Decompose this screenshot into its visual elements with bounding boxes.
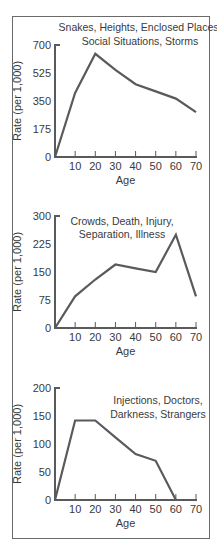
chart-title: Injections, Doctors, [113,394,202,406]
y-axis-label: Rate (per 1,000) [11,404,23,484]
chart-title: Separation, Illness [79,228,165,240]
chart-title: Crowds, Death, Injury, [70,215,173,227]
x-tick-label: 50 [150,331,162,343]
y-tick-label: 200 [33,382,51,394]
x-axis-label: Age [116,517,136,529]
axes [55,45,197,157]
chart-panel-1: 017535052570010203040506070AgeRate (per … [11,21,217,186]
x-tick-label: 10 [69,160,81,172]
data-series-line [55,421,176,501]
x-tick-label: 60 [170,503,182,515]
y-tick-label: 175 [33,123,51,135]
x-tick-label: 40 [129,503,141,515]
x-tick-label: 30 [109,331,121,343]
x-tick-label: 50 [150,160,162,172]
x-tick-label: 20 [89,160,101,172]
data-series-line [55,54,196,157]
y-tick-label: 0 [45,151,51,163]
y-tick-label: 150 [33,266,51,278]
y-tick-label: 225 [33,238,51,250]
x-tick-label: 10 [69,503,81,515]
x-tick-label: 30 [109,503,121,515]
chart-panel-2: 07515022530010203040506070AgeRate (per 1… [11,210,202,357]
y-axis-label: Rate (per 1,000) [11,232,23,312]
x-tick-label: 30 [109,160,121,172]
x-axis-label: Age [116,174,136,186]
x-tick-label: 70 [190,331,202,343]
x-tick-label: 40 [129,160,141,172]
y-tick-label: 100 [33,438,51,450]
y-tick-label: 0 [45,494,51,506]
y-tick-label: 0 [45,322,51,334]
x-axis-label: Age [116,345,136,357]
chart-panel-3: 05010015020010203040506070AgeRate (per 1… [11,382,206,529]
chart-title: Snakes, Heights, Enclosed Places, [59,21,217,33]
chart-title: Social Situations, Storms [82,35,199,47]
y-axis-label: Rate (per 1,000) [11,61,23,141]
y-tick-label: 75 [39,294,51,306]
x-tick-label: 60 [170,331,182,343]
data-series-line [55,235,196,328]
chart-title: Darkness, Strangers [110,408,206,420]
x-tick-label: 20 [89,503,101,515]
x-tick-label: 40 [129,331,141,343]
x-tick-label: 60 [170,160,182,172]
y-tick-label: 150 [33,410,51,422]
y-tick-label: 300 [33,210,51,222]
charts-canvas: 017535052570010203040506070AgeRate (per … [0,0,217,548]
x-tick-label: 10 [69,331,81,343]
y-tick-label: 350 [33,95,51,107]
x-tick-label: 20 [89,331,101,343]
x-tick-label: 70 [190,160,202,172]
y-tick-label: 700 [33,39,51,51]
x-tick-label: 50 [150,503,162,515]
y-tick-label: 50 [39,466,51,478]
x-tick-label: 70 [190,503,202,515]
y-tick-label: 525 [33,67,51,79]
